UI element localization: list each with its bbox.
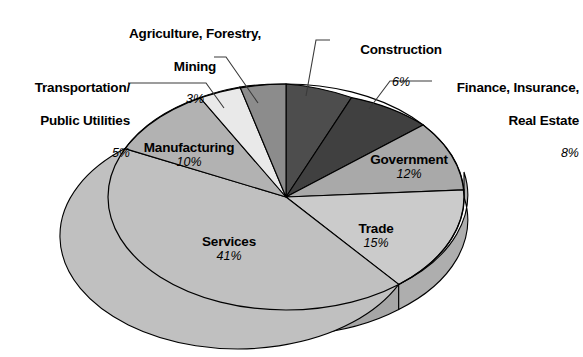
pie-chart: Agriculture, Forestry, Mining 3% Transpo…: [0, 0, 583, 357]
slice-label-manufacturing-percent: 10%: [128, 155, 250, 169]
callout-transportation-line1: Transportation/: [4, 80, 130, 95]
callout-construction-line1: Construction: [334, 42, 468, 57]
slice-label-manufacturing: Manufacturing 10%: [128, 140, 250, 169]
callout-finance-line1: Finance, Insurance,: [399, 80, 579, 95]
slice-label-manufacturing-name: Manufacturing: [128, 140, 250, 155]
callout-agriculture-line1: Agriculture, Forestry,: [90, 26, 300, 41]
slice-label-trade-percent: 15%: [333, 236, 419, 250]
callout-finance-line2: Real Estate: [399, 113, 579, 128]
callout-transportation-line2: Public Utilities: [4, 113, 130, 128]
slice-label-trade: Trade 15%: [333, 221, 419, 250]
slice-label-government-percent: 12%: [352, 167, 466, 181]
slice-label-services-percent: 41%: [177, 249, 281, 263]
slice-label-trade-name: Trade: [333, 221, 419, 236]
callout-transportation: Transportation/ Public Utilities 5%: [4, 62, 130, 178]
slice-label-government: Government 12%: [352, 152, 466, 181]
slice-label-services: Services 41%: [177, 234, 281, 263]
callout-transportation-percent: 5%: [4, 146, 130, 160]
slice-label-government-name: Government: [352, 152, 466, 167]
slice-label-services-name: Services: [177, 234, 281, 249]
